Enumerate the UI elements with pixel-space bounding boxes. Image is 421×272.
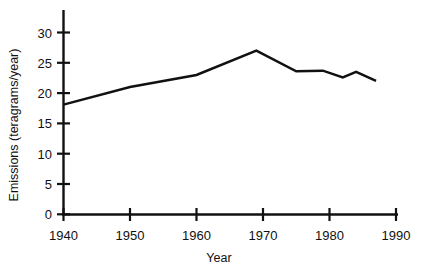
y-tick-label: 15 (38, 116, 52, 131)
y-tick-label: 5 (45, 177, 52, 192)
x-tick-label: 1980 (315, 228, 344, 243)
emissions-line-chart: Emissions (teragrams/year) 30 25 20 15 1… (0, 0, 421, 272)
x-tick-label: 1960 (182, 228, 211, 243)
y-tick-label: 10 (38, 147, 52, 162)
y-axis-title: Emissions (teragrams/year) (7, 49, 21, 202)
x-tick-label: 1990 (382, 228, 411, 243)
x-axis-title: Year (206, 251, 231, 265)
y-tick-labels: 30 25 20 15 10 5 0 (38, 26, 52, 223)
y-tick-label: 0 (45, 207, 52, 222)
x-tick-labels: 1940 1950 1960 1970 1980 1990 (49, 228, 410, 243)
y-tick-label: 30 (38, 26, 52, 41)
y-tick-label: 20 (38, 86, 52, 101)
chart-plot-area: Emissions (teragrams/year) 30 25 20 15 1… (0, 0, 421, 272)
x-tick-label: 1940 (49, 228, 78, 243)
y-tick-label: 25 (38, 56, 52, 71)
emissions-series-line (64, 51, 377, 105)
x-tick-label: 1950 (116, 228, 145, 243)
x-tick-label: 1970 (249, 228, 278, 243)
